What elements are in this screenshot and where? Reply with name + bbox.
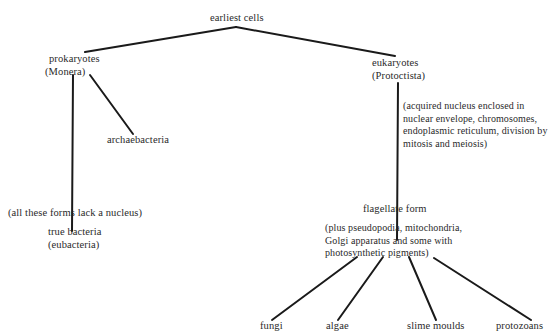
note-line: mitosis and meiosis) [403, 138, 548, 151]
node-label: earliest cells [210, 12, 264, 25]
node-flagellate-form: flagellate form [363, 203, 427, 216]
node-label-line2: (Monera) [45, 66, 100, 79]
node-protozoans: protozoans [496, 320, 543, 332]
node-earliest-cells: earliest cells [210, 12, 264, 25]
tree-edges [0, 0, 560, 332]
node-label: algae [326, 320, 349, 332]
prokaryotes-note: (all these forms lack a nucleus) [8, 207, 142, 220]
note-line: (plus pseudopodia, mitochondria, [325, 222, 462, 235]
node-label: fungi [260, 320, 283, 332]
node-label: slime moulds [407, 320, 465, 332]
node-prokaryotes: prokaryotes (Monera) [47, 53, 100, 78]
node-label-line1: true bacteria [48, 226, 101, 239]
edge-eukaryotes-flagellate [397, 83, 398, 240]
node-label: protozoans [496, 320, 543, 332]
note-line: nuclear envelope, chromosomes, [403, 113, 548, 126]
node-label: archaebacteria [107, 134, 169, 147]
edge-prokaryotes-archaebacteria [90, 75, 133, 134]
note-line: photosynthetic pigments) [325, 247, 462, 260]
node-algae: algae [326, 320, 349, 332]
flagellate-note: (plus pseudopodia, mitochondria, Golgi a… [325, 222, 462, 260]
edge-flagellate-slime-moulds [409, 257, 436, 320]
node-slime-moulds: slime moulds [407, 320, 465, 332]
node-label-line1: eukaryotes [372, 57, 425, 70]
node-label-line2: (Protoctista) [372, 70, 425, 83]
note-line: endoplasmic reticulum, division by [403, 125, 548, 138]
node-archaebacteria: archaebacteria [107, 134, 169, 147]
node-label-line2: (eubacteria) [48, 239, 101, 252]
node-eukaryotes: eukaryotes (Protoctista) [372, 57, 425, 82]
eukaryotes-note: (acquired nucleus enclosed in nuclear en… [403, 100, 548, 150]
edge-flagellate-protozoans [434, 258, 531, 320]
note-text: (all these forms lack a nucleus) [8, 207, 142, 220]
note-line: Golgi apparatus and some with [325, 235, 462, 248]
node-fungi: fungi [260, 320, 283, 332]
node-label: flagellate form [363, 203, 427, 216]
node-true-bacteria: true bacteria (eubacteria) [48, 226, 101, 251]
note-line: (acquired nucleus enclosed in [403, 100, 548, 113]
node-label-line1: prokaryotes [47, 53, 100, 66]
edge-root-eukaryotes [236, 27, 395, 56]
edge-root-prokaryotes [85, 27, 236, 52]
